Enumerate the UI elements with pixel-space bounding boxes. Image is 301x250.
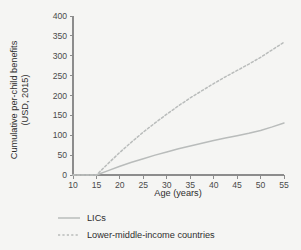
x-tick-label: 10 <box>68 180 78 190</box>
chart-figure: Cumulative per-child benefits (USD, 2015… <box>0 0 301 250</box>
y-tick-label: 400 <box>53 11 68 21</box>
y-tick-label: 300 <box>53 51 68 61</box>
x-tick-label: 25 <box>139 180 149 190</box>
x-tick-label: 15 <box>92 180 102 190</box>
y-tick-label: 100 <box>53 130 68 140</box>
x-tick-label: 55 <box>279 180 289 190</box>
y-tick-label: 200 <box>53 91 68 101</box>
y-axis-title-line2: (USD, 2015) <box>20 74 30 125</box>
y-tick-label: 150 <box>53 110 68 120</box>
legend-label-2: Lower-middle-income countries <box>87 230 215 240</box>
y-axis-title-line1: Cumulative per-child benefits <box>9 40 19 159</box>
series-lower-middle-income-countries <box>73 42 284 175</box>
y-tick-label: 50 <box>57 150 67 160</box>
chart-legend: LICsLower-middle-income countries <box>58 213 215 240</box>
legend-label-1: LICs <box>87 213 106 223</box>
x-tick-label: 40 <box>209 180 219 190</box>
x-axis-title: Age (years) <box>154 188 202 198</box>
y-axis-ticks: 050100150200250300350400 <box>53 11 73 180</box>
series-group <box>73 42 284 175</box>
y-tick-label: 0 <box>62 170 67 180</box>
y-tick-label: 350 <box>53 31 68 41</box>
y-tick-label: 250 <box>53 71 68 81</box>
x-tick-label: 20 <box>115 180 125 190</box>
line-chart: Cumulative per-child benefits (USD, 2015… <box>0 0 301 250</box>
x-tick-label: 45 <box>232 180 242 190</box>
x-tick-label: 50 <box>256 180 266 190</box>
y-axis-title: Cumulative per-child benefits (USD, 2015… <box>9 40 30 159</box>
